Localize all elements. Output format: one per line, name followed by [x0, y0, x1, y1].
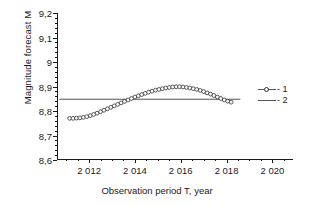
legend-item-2[interactable]: - 2 [258, 95, 288, 106]
y-tick-label: 9,1 [39, 32, 52, 43]
y-tick-label: 8,9 [39, 81, 52, 92]
y-tick-label: 9 [47, 57, 52, 68]
legend-marker-line-icon [258, 84, 276, 95]
legend-label-2: - 2 [277, 95, 288, 106]
x-tick-label: 2 020 [260, 165, 284, 176]
data-point [229, 100, 233, 104]
y-tick-label: 9,2 [39, 8, 52, 19]
legend-label-1: - 1 [277, 84, 288, 95]
series-1-markers [68, 85, 233, 120]
y-tick-label: 8,6 [39, 155, 52, 166]
legend: - 1 - 2 [258, 84, 288, 106]
x-axis-title: Observation period T, year [0, 185, 314, 196]
y-tick-major [53, 160, 57, 161]
y-tick-label: 8,7 [39, 130, 52, 141]
chart-figure: Magnitude forecast M 8,68,78,88,999,19,2… [0, 0, 314, 206]
x-tick-label: 2 018 [215, 165, 239, 176]
legend-item-1[interactable]: - 1 [258, 84, 288, 95]
legend-line-icon [258, 95, 276, 106]
x-tick-label: 2 012 [77, 165, 101, 176]
x-tick-label: 2 014 [123, 165, 147, 176]
y-tick-label: 8,8 [39, 106, 52, 117]
x-tick-label: 2 016 [169, 165, 193, 176]
y-axis-title: Magnitude forecast M [22, 0, 33, 133]
